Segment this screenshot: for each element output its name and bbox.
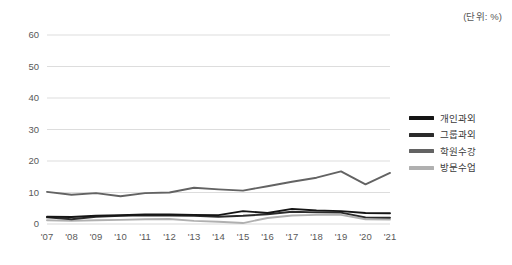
- y-tick-label: 0: [13, 219, 39, 229]
- legend-item[interactable]: 개인과외: [409, 110, 509, 127]
- x-tick-label: '15: [230, 231, 256, 242]
- y-tick-label: 50: [13, 62, 39, 72]
- legend-label: 그룹과외: [440, 129, 476, 140]
- x-tick-label: '16: [255, 231, 281, 242]
- y-tick-label: 10: [13, 188, 39, 198]
- x-tick-label: '18: [304, 231, 330, 242]
- x-tick-label: '20: [353, 231, 379, 242]
- x-tick-label: '13: [181, 231, 207, 242]
- legend-swatch-icon: [409, 149, 434, 153]
- legend-label: 학원수강: [440, 146, 476, 157]
- x-tick-label: '07: [34, 231, 60, 242]
- x-tick-label: '08: [59, 231, 85, 242]
- legend-swatch-icon: [409, 133, 434, 137]
- legend-label: 방문수업: [440, 162, 476, 173]
- x-tick-label: '19: [328, 231, 354, 242]
- legend-item[interactable]: 학원수강: [409, 143, 509, 160]
- x-tick-label: '21: [377, 231, 403, 242]
- legend-item[interactable]: 방문수업: [409, 160, 509, 177]
- x-tick-label: '11: [132, 231, 158, 242]
- y-tick-label: 40: [13, 93, 39, 103]
- x-tick-label: '10: [108, 231, 134, 242]
- legend-swatch-icon: [409, 166, 434, 170]
- x-tick-label: '09: [83, 231, 109, 242]
- legend-swatch-icon: [409, 116, 434, 120]
- y-tick-label: 20: [13, 156, 39, 166]
- x-tick-label: '17: [279, 231, 305, 242]
- line-chart: (단위: %) 0102030405060 '07'08'09'10'11'12…: [0, 0, 512, 265]
- chart-legend: 개인과외그룹과외학원수강방문수업: [409, 110, 509, 176]
- y-tick-label: 60: [13, 30, 39, 40]
- y-tick-label: 30: [13, 125, 39, 135]
- x-tick-label: '14: [206, 231, 232, 242]
- x-tick-label: '12: [157, 231, 183, 242]
- legend-label: 개인과외: [440, 113, 476, 124]
- legend-item[interactable]: 그룹과외: [409, 127, 509, 144]
